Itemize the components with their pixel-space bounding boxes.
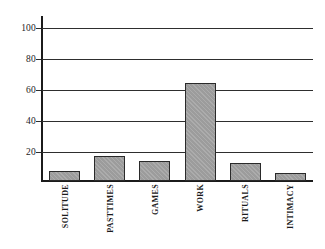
x-axis-category-labels: SOLITUDE PASTTIMES GAMES WORK RITUALS IN…: [42, 184, 313, 248]
x-label-intimacy: INTIMACY: [286, 184, 295, 229]
bar-intimacy: [275, 173, 306, 181]
tick-100: [36, 28, 41, 29]
y-axis-tick-labels: 100 80 60 40 20: [0, 0, 36, 249]
x-label-solitude: SOLITUDE: [61, 184, 70, 228]
bar-rituals: [230, 163, 261, 181]
bar-work: [185, 83, 216, 181]
y-tick-label-80: 80: [26, 54, 36, 64]
y-tick-label-20: 20: [26, 147, 36, 157]
y-tick-label-60: 60: [26, 85, 36, 95]
y-tick-label-100: 100: [21, 23, 36, 33]
bar-pasttimes: [94, 156, 125, 181]
bar-chart: 100 80 60 40 20 SOLITUDE PASTTIMES GAMES…: [0, 0, 325, 249]
x-label-work: WORK: [196, 184, 205, 212]
bars-layer: [42, 17, 313, 181]
x-label-games: GAMES: [151, 184, 160, 215]
y-tick-label-40: 40: [26, 116, 36, 126]
x-label-rituals: RITUALS: [241, 184, 250, 222]
tick-40: [36, 121, 41, 122]
tick-60: [36, 90, 41, 91]
tick-80: [36, 59, 41, 60]
tick-20: [36, 152, 41, 153]
bar-games: [139, 161, 170, 181]
x-label-pasttimes: PASTTIMES: [106, 184, 115, 233]
bar-solitude: [49, 171, 80, 181]
